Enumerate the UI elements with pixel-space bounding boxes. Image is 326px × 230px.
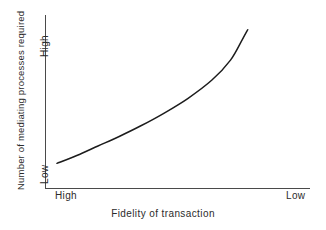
x-axis-tick-high: High [55,191,77,201]
y-axis-tick-high: High [40,35,50,57]
data-curve [57,30,248,164]
y-axis-title: Number of mediating processes required [16,15,26,190]
x-axis-tick-low: Low [286,191,305,201]
chart-figure: Number of mediating processes required H… [0,0,326,230]
y-axis-tick-low: Low [40,165,50,184]
x-axis-title: Fidelity of transaction [0,209,326,219]
